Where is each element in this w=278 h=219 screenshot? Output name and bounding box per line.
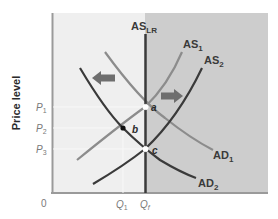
point-a-marker: [143, 104, 148, 109]
plot-right-region: [145, 13, 268, 193]
origin-label: 0: [41, 198, 47, 209]
point-b-label: b: [132, 124, 138, 135]
tick-qf: Qf: [140, 199, 151, 211]
tick-p2: P2: [36, 123, 47, 135]
tick-p1: P1: [36, 102, 47, 114]
tick-q1: Q1: [116, 199, 128, 211]
plot-left-region: [52, 13, 145, 193]
as-ad-diagram: a b c ASLR AS1 AS2 AD1 AD2 Price level P…: [0, 0, 278, 219]
y-axis-title: Price level: [10, 76, 22, 130]
point-c-marker: [143, 146, 148, 151]
point-b-marker: [120, 125, 125, 130]
point-c-label: c: [152, 145, 158, 156]
point-a-label: a: [151, 102, 157, 113]
tick-p3: P3: [36, 144, 47, 156]
